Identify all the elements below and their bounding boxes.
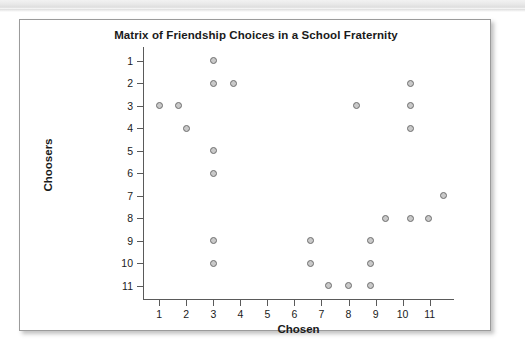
x-tick-label-8: 8 [337,309,361,320]
y-tick-3 [137,106,143,107]
y-tick-label-6: 6 [105,168,133,178]
x-tick-label-9: 9 [364,309,388,320]
data-point [440,192,447,199]
y-tick-label-wrap-7: 7 [105,191,133,201]
data-point [210,57,217,64]
x-tick-label-6: 6 [282,309,306,320]
data-point [210,237,217,244]
x-axis-title: Chosen [143,323,454,335]
y-tick-6 [137,173,143,174]
y-tick-8 [137,218,143,219]
data-point [367,260,374,267]
y-tick-label-4: 4 [105,123,133,133]
plot-area: 1234567891011 1234567891011 Chosen Choos… [20,20,492,332]
data-point [425,215,432,222]
y-tick-11 [137,286,143,287]
x-axis-line [143,299,454,300]
y-tick-label-wrap-1: 1 [105,56,133,66]
data-point [367,237,374,244]
data-point [382,215,389,222]
data-point [230,80,237,87]
y-tick-label-wrap-2: 2 [105,78,133,88]
data-point [307,237,314,244]
data-point [353,102,360,109]
y-tick-label-wrap-8: 8 [105,213,133,223]
top-partial-toolbar-band [0,0,525,9]
x-tick-4 [240,300,241,306]
top-band-shadow [0,9,525,12]
y-tick-label-wrap-9: 9 [105,236,133,246]
x-tick-label-4: 4 [228,309,252,320]
data-point [175,102,182,109]
x-tick-9 [376,300,377,306]
data-point [210,80,217,87]
y-tick-2 [137,83,143,84]
x-tick-label-10: 10 [391,309,415,320]
y-tick-label-5: 5 [105,146,133,156]
x-tick-10 [403,300,404,306]
data-point [156,102,163,109]
data-point [307,260,314,267]
data-point [367,282,374,289]
y-tick-label-wrap-11: 11 [105,281,133,291]
data-point [407,215,414,222]
x-tick-2 [186,300,187,306]
y-tick-label-wrap-5: 5 [105,146,133,156]
x-tick-label-2: 2 [174,309,198,320]
data-point [210,170,217,177]
y-tick-label-wrap-10: 10 [105,258,133,268]
x-tick-label-1: 1 [147,309,171,320]
y-tick-label-1: 1 [105,56,133,66]
y-tick-label-wrap-3: 3 [105,101,133,111]
y-tick-label-7: 7 [105,191,133,201]
y-tick-4 [137,128,143,129]
x-tick-6 [294,300,295,306]
y-tick-label-10: 10 [105,258,133,268]
y-tick-label-8: 8 [105,213,133,223]
x-tick-label-3: 3 [201,309,225,320]
y-tick-label-wrap-4: 4 [105,123,133,133]
data-point [407,102,414,109]
data-point [210,147,217,154]
y-tick-label-3: 3 [105,101,133,111]
data-point [407,80,414,87]
y-tick-5 [137,151,143,152]
y-tick-label-9: 9 [105,236,133,246]
x-tick-11 [430,300,431,306]
y-axis-title: Choosers [42,105,54,225]
y-tick-1 [137,61,143,62]
data-point [345,282,352,289]
y-tick-10 [137,263,143,264]
x-tick-3 [213,300,214,306]
figure-card: Matrix of Friendship Choices in a School… [19,19,491,331]
data-point [407,125,414,132]
y-tick-label-wrap-6: 6 [105,168,133,178]
data-point [210,260,217,267]
x-tick-label-11: 11 [418,309,442,320]
x-tick-7 [321,300,322,306]
y-tick-7 [137,196,143,197]
y-tick-label-2: 2 [105,78,133,88]
data-point [325,282,332,289]
x-tick-label-7: 7 [309,309,333,320]
x-tick-label-5: 5 [255,309,279,320]
data-point [183,125,190,132]
y-tick-9 [137,241,143,242]
x-tick-8 [349,300,350,306]
x-tick-1 [159,300,160,306]
y-tick-label-11: 11 [105,281,133,291]
x-tick-5 [267,300,268,306]
y-axis-line [143,47,144,299]
